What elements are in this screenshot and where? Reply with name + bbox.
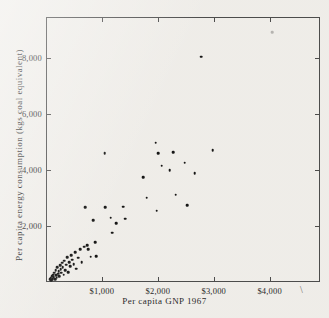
data-point bbox=[67, 271, 70, 274]
data-point bbox=[71, 259, 74, 262]
x-tick-top bbox=[270, 17, 271, 22]
data-point bbox=[89, 255, 92, 258]
y-tick-left bbox=[46, 114, 51, 115]
data-point bbox=[65, 263, 68, 266]
x-tick-bottom bbox=[158, 277, 159, 282]
data-point bbox=[92, 219, 95, 222]
y-tick-left bbox=[46, 58, 51, 59]
scatter-chart-figure: $1,000$2,000$3,000$4,0002,0004,0006,0008… bbox=[0, 0, 329, 318]
data-point bbox=[87, 248, 90, 251]
x-tick-top bbox=[102, 17, 103, 22]
data-point bbox=[200, 56, 203, 59]
data-point bbox=[79, 248, 82, 251]
data-point bbox=[271, 31, 274, 34]
data-point bbox=[104, 206, 107, 209]
x-tick-label: $2,000 bbox=[146, 286, 171, 296]
data-point bbox=[72, 263, 75, 266]
x-axis-label: Per capita GNP 1967 bbox=[0, 296, 329, 306]
data-point bbox=[115, 222, 118, 225]
print-artifact-mark: \ bbox=[300, 284, 303, 295]
y-tick-left bbox=[46, 226, 51, 227]
x-tick-label: $4,000 bbox=[257, 286, 282, 296]
data-point bbox=[103, 152, 106, 155]
data-point bbox=[186, 204, 189, 207]
data-point bbox=[58, 275, 61, 278]
y-tick-right bbox=[315, 114, 320, 115]
data-point bbox=[157, 152, 160, 155]
data-point bbox=[160, 164, 163, 167]
data-point bbox=[77, 257, 80, 260]
y-tick-right bbox=[315, 58, 320, 59]
data-point bbox=[183, 161, 186, 164]
data-point bbox=[193, 172, 196, 175]
y-tick-right bbox=[315, 170, 320, 171]
data-point bbox=[142, 176, 145, 179]
data-point bbox=[172, 151, 175, 154]
x-tick-bottom bbox=[270, 277, 271, 282]
y-tick-left bbox=[46, 170, 51, 171]
y-tick-right bbox=[315, 226, 320, 227]
data-point bbox=[68, 261, 71, 264]
data-point bbox=[69, 265, 72, 268]
data-point bbox=[56, 266, 59, 269]
data-point bbox=[154, 141, 157, 144]
x-tick-top bbox=[158, 17, 159, 22]
x-tick-label: $1,000 bbox=[90, 286, 115, 296]
x-tick-label: $3,000 bbox=[201, 286, 226, 296]
data-point bbox=[111, 231, 114, 234]
data-point bbox=[145, 197, 148, 200]
y-axis-label: Per capita energy consumption (kgs coal … bbox=[14, 40, 24, 270]
data-point bbox=[211, 149, 214, 152]
x-tick-top bbox=[214, 17, 215, 22]
data-point bbox=[95, 255, 98, 258]
data-point bbox=[110, 216, 113, 219]
data-point bbox=[124, 218, 127, 221]
data-point bbox=[168, 169, 171, 172]
data-point bbox=[86, 244, 89, 247]
data-point bbox=[75, 267, 78, 270]
data-point bbox=[94, 241, 97, 244]
data-point bbox=[174, 193, 177, 196]
data-point bbox=[74, 251, 77, 254]
data-point bbox=[80, 261, 83, 264]
x-tick-bottom bbox=[214, 277, 215, 282]
data-point bbox=[62, 273, 65, 276]
data-point bbox=[84, 206, 87, 209]
x-tick-bottom bbox=[102, 277, 103, 282]
data-point bbox=[66, 256, 69, 259]
data-point bbox=[155, 209, 158, 212]
data-point bbox=[122, 205, 125, 208]
data-point bbox=[63, 259, 66, 262]
data-point bbox=[70, 254, 73, 257]
plot-frame bbox=[46, 17, 320, 282]
